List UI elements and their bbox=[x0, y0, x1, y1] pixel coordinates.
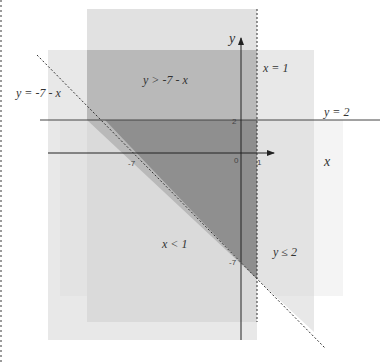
origin-label: 0 bbox=[234, 156, 239, 165]
y-tick-2-label: 2 bbox=[232, 117, 237, 126]
x-axis-label: x bbox=[323, 154, 331, 169]
label-region-y-greater: y > -7 - x bbox=[142, 73, 188, 87]
x-tick-1-label: 1 bbox=[257, 158, 262, 167]
label-line-y-eq-neg7-minus-x: y = -7 - x bbox=[15, 86, 61, 100]
label-region-x-less-1: x < 1 bbox=[161, 237, 187, 251]
y-axis-label: y bbox=[227, 31, 236, 46]
label-region-y-le-2: y ≤ 2 bbox=[272, 245, 297, 259]
x-tick-neg7-label: -7 bbox=[128, 159, 136, 168]
y-tick-neg7-label: -7 bbox=[229, 258, 237, 267]
inequality-graph: y x 0 1 -7 2 -7 y = -7 - x x = 1 y = 2 y… bbox=[0, 0, 387, 362]
label-line-y-eq-2: y = 2 bbox=[323, 105, 349, 119]
label-line-x-eq-1: x = 1 bbox=[262, 61, 288, 75]
